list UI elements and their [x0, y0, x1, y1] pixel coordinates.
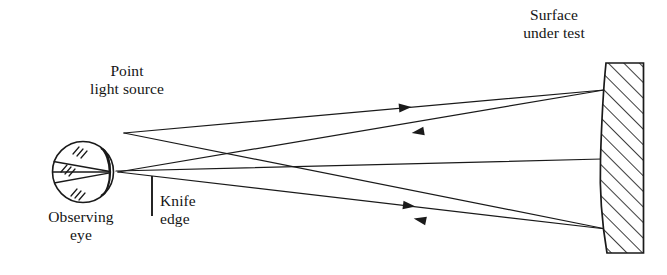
arrow-right-lower: [402, 201, 415, 211]
ray-outgoing-upper: [124, 90, 604, 133]
surface-block-fill: [600, 63, 643, 253]
arrow-left-upper: [411, 127, 425, 138]
label-point-light-source: Point light source: [62, 62, 192, 99]
label-observing-eye: Observing eye: [18, 208, 144, 245]
ray-optical-axis: [116, 159, 602, 171]
arrow-right-upper: [399, 103, 412, 113]
observing-eye: [53, 142, 114, 203]
arrow-left-lower: [413, 214, 427, 225]
surface-under-test: [600, 63, 643, 253]
ray-returning-upper: [118, 90, 604, 172]
label-knife-edge: Knife edge: [160, 192, 252, 229]
label-surface-under-test: Surface under test: [486, 6, 622, 43]
